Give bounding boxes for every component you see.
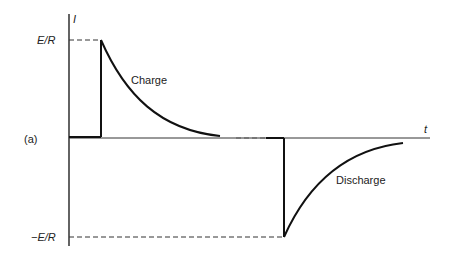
- panel-label: (a): [24, 133, 37, 145]
- charge-label: Charge: [131, 74, 167, 86]
- x-axis-label: t: [424, 123, 428, 135]
- discharge-decay-curve: [284, 143, 403, 237]
- y-axis-label: I: [73, 13, 76, 25]
- charge-decay-curve: [101, 40, 220, 136]
- y-tick-bottom-label: −E/R: [31, 231, 56, 243]
- discharge-label: Discharge: [336, 174, 386, 186]
- y-tick-top-label: E/R: [37, 34, 55, 46]
- rc-current-diagram: I t (a) E/R −E/R Charge Discharge: [0, 0, 451, 270]
